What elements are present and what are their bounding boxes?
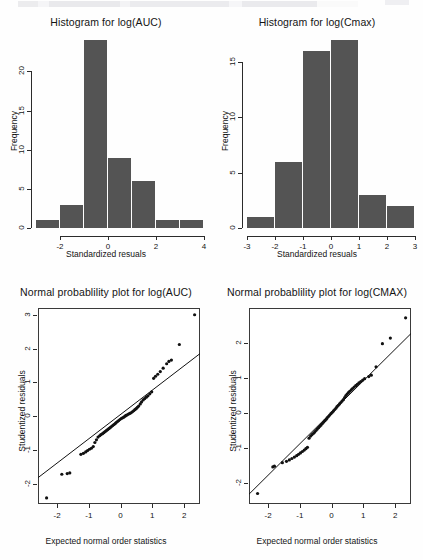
histogram-bar [275,162,302,228]
x-axis-tick-label: -2 [47,511,67,520]
x-axis-tick-label: -1 [290,511,310,520]
x-axis-tick-label: 1 [353,511,373,520]
x-axis-tick [60,236,61,240]
y-axis-tick-label: -2 [234,474,243,492]
x-axis-tick-label: -1 [79,511,99,520]
histogram-bar [180,220,203,228]
x-axis-tick [387,236,388,240]
x-axis-tick-label: 1 [142,511,162,520]
histogram-bar [132,181,155,228]
y-axis-tick [33,382,37,383]
data-point [381,342,384,345]
y-axis-tick-label: -1 [23,440,32,458]
y-axis-line [242,62,243,228]
y-axis-tick-label: 15 [228,53,237,71]
data-point [273,465,276,468]
y-axis-tick [27,150,31,151]
data-point [389,337,392,340]
histogram-bar [359,195,386,228]
y-axis-tick [33,315,37,316]
histogram-bar [60,205,83,229]
data-point [68,471,71,474]
y-axis-tick [238,62,242,63]
data-point [159,370,162,373]
y-axis-tick [33,416,37,417]
x-axis-tick [108,236,109,240]
y-axis-tick-label: 0 [17,219,26,237]
histogram-bar [36,220,59,228]
data-point [165,362,168,365]
data-point [170,358,173,361]
chart-title: Normal probablility plot for log(AUC) [0,286,212,298]
y-axis-tick [33,349,37,350]
y-axis-tick [27,71,31,72]
x-axis-tick [152,504,153,508]
data-point [285,460,288,463]
y-axis-tick [27,189,31,190]
y-axis-tick-label: -1 [234,439,243,457]
data-point [363,377,366,380]
y-axis-tick-label: 0 [228,219,237,237]
scanned-page: Histogram for log(AUC) Frequency 0510152… [0,0,423,560]
y-axis-tick [27,228,31,229]
data-point [156,373,159,376]
x-axis-tick-label: 0 [322,511,342,520]
x-axis-tick-label: 2 [385,511,405,520]
page-number-artifact [385,0,409,5]
data-point [281,461,284,464]
y-axis-tick-label: 0 [23,407,32,425]
reference-line [38,354,200,478]
y-axis-tick [244,448,248,449]
y-axis-tick [238,117,242,118]
x-axis-tick [363,504,364,508]
data-point [306,446,309,449]
running-head-artifact [18,1,358,7]
histogram-bar [247,217,274,228]
y-axis-tick-label: 1 [234,369,243,387]
y-axis-tick [33,484,37,485]
y-axis-line [31,71,32,228]
x-axis-tick [275,236,276,240]
data-point [150,390,153,393]
x-axis-label: Expected normal order statistics [0,536,212,546]
data-point [60,473,63,476]
x-axis-tick [121,504,122,508]
x-axis-tick [156,236,157,240]
qq-scatter-layer [38,308,200,504]
data-point [370,374,373,377]
x-axis-label: Expected normal order statistics [211,536,423,546]
plot-area: -2-1012-2-10123 [38,308,200,504]
data-point [95,438,98,441]
y-axis-tick [244,413,248,414]
chart-title: Histogram for log(Cmax) [211,16,423,28]
x-axis-tick [415,236,416,240]
x-axis-tick [331,236,332,240]
data-point [374,365,377,368]
panel-histogram-auc: Histogram for log(AUC) Frequency 0510152… [0,16,212,276]
plot-area: -2-1012-2-1012 [249,308,411,504]
x-axis-tick-label: 0 [111,511,131,520]
histogram-bar [156,220,179,228]
data-point [193,313,196,316]
y-axis-tick [238,228,242,229]
y-axis-tick-label: 10 [228,108,237,126]
data-point [178,343,181,346]
y-axis-tick-label: 10 [17,140,26,158]
data-point [92,445,95,448]
x-axis-label: Standardized resuals [0,249,212,259]
y-axis-tick [244,343,248,344]
y-axis-tick [244,378,248,379]
data-point [256,492,259,495]
y-axis-tick-label: 20 [17,62,26,80]
data-point [162,367,165,370]
histogram-bar [387,206,414,228]
qq-scatter-layer [249,308,411,504]
data-point [45,496,48,499]
x-axis-tick [300,504,301,508]
y-axis-tick-label: 15 [17,101,26,119]
panel-qq-cmax: Normal probablility plot for log(CMAX) S… [211,286,423,560]
chart-title: Histogram for log(AUC) [0,16,212,28]
x-axis-label: Standardized resuals [211,249,423,259]
x-axis-tick [184,504,185,508]
histogram-bar [108,158,131,229]
